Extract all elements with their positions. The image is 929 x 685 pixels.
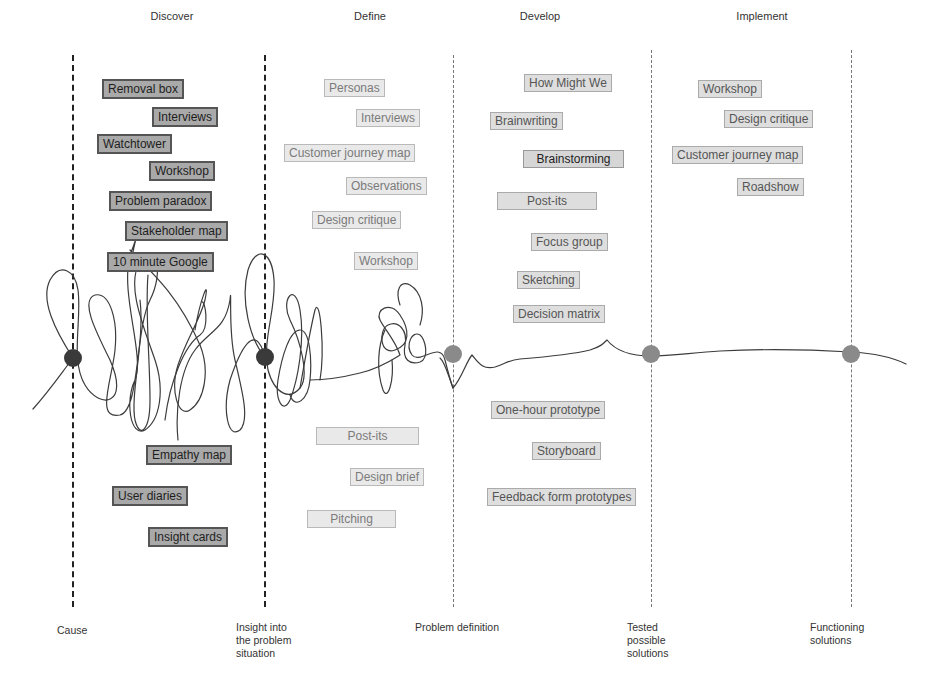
method-observations: Observations (346, 177, 427, 195)
method-how-might-we: How Might We (524, 74, 612, 92)
method-focus-group: Focus group (531, 233, 608, 251)
method-10-minute-google: 10 minute Google (107, 252, 214, 272)
milestone-dot-tested-solutions (642, 345, 660, 363)
method-storyboard: Storyboard (532, 442, 601, 460)
method-workshop-discover: Workshop (149, 161, 215, 181)
method-brainstorming: Brainstorming (523, 150, 624, 168)
method-workshop-implement: Workshop (698, 80, 762, 98)
method-post-its-define: Post-its (316, 427, 419, 445)
method-problem-paradox: Problem paradox (109, 191, 212, 211)
milestone-label-tested-solutions: Tested possible solutions (627, 621, 668, 660)
method-design-brief: Design brief (350, 468, 424, 486)
method-workshop-define: Workshop (354, 252, 418, 270)
method-post-its-develop: Post-its (497, 192, 597, 210)
method-design-critique-implement: Design critique (724, 110, 813, 128)
method-customer-journey-map-define: Customer journey map (284, 144, 415, 162)
milestone-dot-insight (256, 348, 274, 366)
milestone-label-insight: Insight into the problem situation (236, 621, 291, 660)
method-sketching: Sketching (517, 271, 580, 289)
method-design-critique-define: Design critique (312, 211, 401, 229)
milestone-label-functioning-solutions: Functioning solutions (810, 621, 864, 647)
milestone-label-problem-definition: Problem definition (415, 621, 499, 634)
method-customer-journey-map-implement: Customer journey map (672, 146, 803, 164)
milestone-dot-functioning-solutions (842, 345, 860, 363)
method-personas: Personas (324, 79, 385, 97)
method-watchtower: Watchtower (97, 134, 172, 154)
method-insight-cards: Insight cards (148, 527, 228, 547)
milestone-dot-cause (64, 349, 82, 367)
method-interviews-define: Interviews (356, 109, 420, 127)
method-empathy-map: Empathy map (146, 445, 232, 465)
method-one-hour-prototype: One-hour prototype (491, 401, 605, 419)
method-roadshow: Roadshow (737, 178, 804, 196)
design-squiggle-curve (0, 0, 929, 685)
milestone-label-cause: Cause (57, 624, 87, 637)
method-interviews-discover: Interviews (152, 107, 218, 127)
method-pitching: Pitching (307, 510, 396, 528)
method-decision-matrix: Decision matrix (513, 305, 605, 323)
method-removal-box: Removal box (102, 79, 184, 99)
method-feedback-form-prototypes: Feedback form prototypes (487, 488, 636, 506)
method-brainwriting: Brainwriting (490, 112, 563, 130)
method-stakeholder-map: Stakeholder map (125, 221, 228, 241)
method-user-diaries: User diaries (112, 486, 188, 506)
milestone-dot-problem-definition (444, 345, 462, 363)
